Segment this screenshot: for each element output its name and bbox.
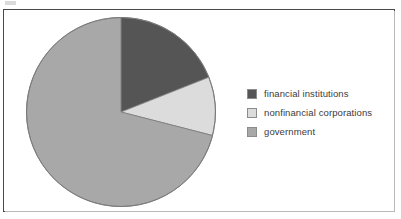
legend-item-financial-institutions[interactable]: financial institutions	[247, 84, 397, 103]
chart-frame: financial institutions nonfinancial corp…	[3, 9, 395, 212]
legend-label-nonfinancial-corporations: nonfinancial corporations	[264, 107, 372, 118]
legend-swatch-nonfinancial-corporations	[247, 108, 257, 118]
legend-swatch-financial-institutions	[247, 89, 257, 99]
pie-slices	[26, 17, 215, 206]
pie-chart-svg	[23, 15, 219, 209]
legend-label-financial-institutions: financial institutions	[264, 88, 349, 99]
legend-swatch-government	[247, 127, 257, 137]
pie-chart	[23, 15, 219, 209]
chart-page: financial institutions nonfinancial corp…	[0, 0, 401, 219]
legend-item-government[interactable]: government	[247, 122, 397, 141]
legend-label-government: government	[264, 126, 315, 137]
scan-artifact	[5, 1, 16, 5]
legend: financial institutions nonfinancial corp…	[247, 84, 397, 141]
legend-item-nonfinancial-corporations[interactable]: nonfinancial corporations	[247, 103, 397, 122]
